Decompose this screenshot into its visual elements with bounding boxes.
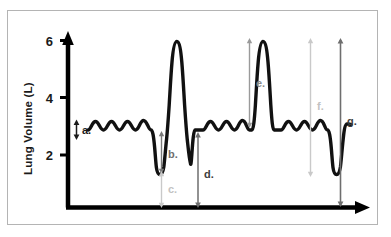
marker-arrow-a: a. — [74, 120, 92, 141]
marker-label-b: b. — [168, 148, 178, 160]
marker-label-a: a. — [82, 124, 91, 136]
marker-label-c: c. — [168, 183, 177, 195]
marker-arrow-g: g. — [338, 38, 357, 207]
marker-arrow-f: f. — [308, 38, 324, 177]
marker-arrow-d: d. — [195, 132, 214, 208]
y-tick-label-6: 6 — [46, 34, 53, 49]
y-tick-label-2: 2 — [46, 148, 53, 163]
spirogram-chart: 6 4 2 Lung Volume (L) a. b. c. — [0, 0, 391, 237]
marker-label-d: d. — [204, 168, 214, 180]
y-axis — [60, 31, 74, 208]
spirogram-trace — [88, 42, 351, 175]
marker-arrow-c: c. — [159, 171, 177, 208]
marker-label-f: f. — [317, 100, 324, 112]
y-axis-title: Lung Volume (L) — [22, 82, 34, 175]
marker-label-g: g. — [347, 115, 357, 127]
spirogram-figure: 6 4 2 Lung Volume (L) a. b. c. — [0, 0, 391, 237]
y-tick-label-4: 4 — [46, 91, 54, 106]
marker-label-e: e. — [256, 77, 265, 89]
x-axis — [66, 201, 370, 214]
